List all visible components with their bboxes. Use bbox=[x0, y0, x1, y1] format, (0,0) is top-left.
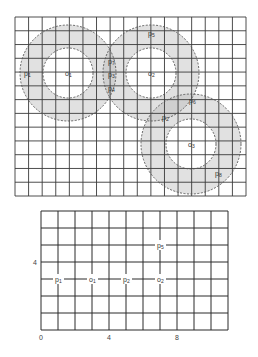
diagram-canvas: o1o2o3p1p5p7p3p4p6p2p8 0484 p1o1p2o2p5 bbox=[0, 0, 258, 357]
x-tick-8: 8 bbox=[175, 334, 179, 341]
top-annulus-diagram: o1o2o3p1p5p7p3p4p6p2p8 bbox=[15, 17, 246, 196]
x-tick-4: 4 bbox=[107, 334, 111, 341]
bottom-grid bbox=[41, 211, 228, 330]
bottom-grid-diagram: 0484 p1o1p2o2p5 bbox=[33, 211, 228, 341]
y-tick-4: 4 bbox=[33, 259, 37, 266]
x-tick-0: 0 bbox=[39, 334, 43, 341]
axis-tick-labels: 0484 bbox=[33, 259, 179, 342]
